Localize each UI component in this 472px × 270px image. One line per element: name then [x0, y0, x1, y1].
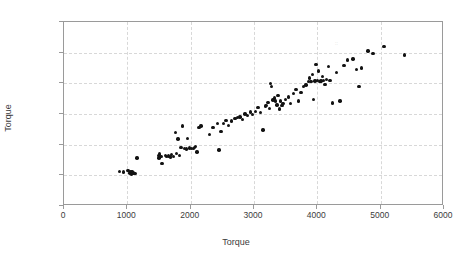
data-point [317, 69, 320, 72]
data-point [275, 103, 278, 106]
data-point [219, 130, 222, 133]
data-point [276, 94, 279, 97]
x-tick-mark [316, 205, 317, 209]
gridline-horizontal [64, 83, 442, 84]
x-tick-label: 5000 [370, 210, 389, 220]
data-point [266, 101, 269, 104]
data-point [122, 170, 125, 173]
data-point [216, 122, 219, 125]
data-point [172, 155, 175, 158]
data-point [222, 122, 225, 125]
data-point [178, 154, 181, 157]
data-point [270, 85, 273, 88]
data-point [299, 91, 302, 94]
data-point [176, 137, 179, 140]
x-tick-mark [380, 205, 381, 209]
data-point [342, 64, 345, 67]
gridline-vertical [254, 22, 255, 204]
data-point [314, 63, 317, 66]
data-point [246, 114, 249, 117]
x-tick-label: 3000 [244, 210, 263, 220]
data-point [292, 92, 295, 95]
scatter-plot-figure: :: 0100020003000400050006000 01000200030… [0, 0, 472, 270]
data-point [181, 124, 184, 127]
data-point [160, 162, 163, 165]
y-tick-mark [59, 144, 63, 145]
data-point [274, 99, 277, 102]
x-axis-title: Torque [0, 237, 472, 247]
data-point [227, 124, 230, 127]
data-point [331, 101, 334, 104]
y-axis-title: Torque [3, 104, 13, 132]
x-tick-label: 2000 [180, 210, 199, 220]
data-point [199, 124, 202, 127]
data-point [135, 156, 138, 159]
gridline-vertical [127, 22, 128, 204]
data-point [371, 52, 374, 55]
gridline-horizontal [64, 53, 442, 54]
data-point [194, 145, 197, 148]
data-point [208, 133, 211, 136]
data-point [254, 110, 257, 113]
y-tick-mark [59, 205, 63, 206]
data-point [351, 57, 354, 60]
data-point [321, 75, 324, 78]
y-tick-mark [59, 113, 63, 114]
data-point [357, 85, 360, 88]
data-point [366, 49, 369, 52]
data-point [268, 107, 271, 110]
data-point [289, 102, 292, 105]
data-point [294, 88, 297, 91]
data-point [118, 170, 121, 173]
x-tick-label: 4000 [307, 210, 326, 220]
data-point [360, 66, 363, 69]
y-tick-mark [59, 52, 63, 53]
data-point [297, 99, 300, 102]
x-tick-label: 1000 [117, 210, 136, 220]
data-point [281, 102, 284, 105]
data-point [217, 148, 220, 151]
x-tick-label: 6000 [434, 210, 453, 220]
y-tick-mark [59, 82, 63, 83]
data-point [211, 126, 214, 129]
render-artifact-speck: :: [335, 41, 338, 46]
data-point [346, 58, 349, 61]
x-tick-mark [126, 205, 127, 209]
data-point [230, 119, 233, 122]
x-tick-mark [63, 205, 64, 209]
x-tick-mark [253, 205, 254, 209]
data-point [174, 131, 177, 134]
x-tick-mark [190, 205, 191, 209]
y-tick-mark [59, 21, 63, 22]
gridline-horizontal [64, 145, 442, 146]
data-point [312, 98, 315, 101]
data-point [159, 155, 162, 158]
data-point [304, 83, 307, 86]
data-point [335, 71, 338, 74]
data-point [287, 95, 290, 98]
data-point [133, 172, 136, 175]
data-point [338, 99, 341, 102]
data-point [241, 118, 244, 121]
gridline-vertical [317, 22, 318, 204]
gridline-vertical [381, 22, 382, 204]
y-tick-mark [59, 174, 63, 175]
plot-area: :: [63, 21, 443, 205]
data-point [224, 119, 227, 122]
data-point [327, 65, 330, 68]
data-point [261, 128, 264, 131]
data-point [323, 83, 326, 86]
x-tick-label: 0 [61, 210, 66, 220]
data-point [382, 45, 385, 48]
data-point [256, 106, 259, 109]
data-point [195, 150, 198, 153]
x-tick-mark [443, 205, 444, 209]
gridline-vertical [191, 22, 192, 204]
data-point [328, 79, 331, 82]
data-point [278, 107, 281, 110]
data-point [311, 73, 314, 76]
data-point [403, 53, 406, 56]
data-point [355, 68, 358, 71]
data-point [186, 137, 189, 140]
gridline-horizontal [64, 175, 442, 176]
